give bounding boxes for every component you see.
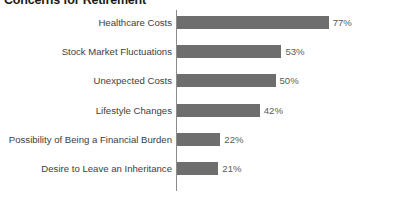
bar-category-label: Desire to Leave an Inheritance [0, 162, 172, 175]
bar-track: 21% [177, 162, 242, 175]
bar-category-label: Stock Market Fluctuations [0, 45, 172, 58]
bar-chart: Concerns for Retirement Healthcare Costs… [0, 0, 407, 203]
bar-fill [177, 133, 220, 146]
bar-row: Stock Market Fluctuations53% [0, 45, 407, 58]
bar-category-label: Lifestyle Changes [0, 104, 172, 117]
bar-track: 53% [177, 45, 305, 58]
chart-title: Concerns for Retirement [4, 0, 146, 7]
bar-value-label: 42% [264, 104, 283, 117]
bar-fill [177, 45, 281, 58]
bar-fill [177, 162, 218, 175]
bar-category-label: Possibility of Being a Financial Burden [0, 133, 172, 146]
bar-category-label: Unexpected Costs [0, 74, 172, 87]
bar-category-label: Healthcare Costs [0, 16, 172, 29]
bar-fill [177, 104, 260, 117]
bar-row: Desire to Leave an Inheritance21% [0, 162, 407, 175]
bar-track: 77% [177, 16, 352, 29]
plot-area: Healthcare Costs77%Stock Market Fluctuat… [0, 10, 407, 195]
bar-fill [177, 16, 329, 29]
bar-track: 50% [177, 74, 299, 87]
bar-track: 22% [177, 133, 244, 146]
bar-row: Lifestyle Changes42% [0, 104, 407, 117]
bar-track: 42% [177, 104, 283, 117]
bar-value-label: 21% [222, 162, 241, 175]
bar-value-label: 22% [224, 133, 243, 146]
bar-row: Healthcare Costs77% [0, 16, 407, 29]
bar-value-label: 77% [333, 16, 352, 29]
bar-fill [177, 74, 276, 87]
bar-value-label: 53% [285, 45, 304, 58]
bar-row: Possibility of Being a Financial Burden2… [0, 133, 407, 146]
bar-value-label: 50% [280, 74, 299, 87]
bar-row: Unexpected Costs50% [0, 74, 407, 87]
